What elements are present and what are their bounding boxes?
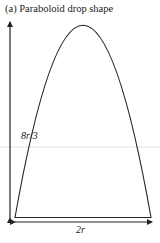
height-label: 8r/3 (21, 130, 38, 141)
width-label: 2r (76, 224, 85, 235)
paraboloid-diagram (0, 0, 160, 243)
paraboloid-outline (15, 25, 151, 217)
